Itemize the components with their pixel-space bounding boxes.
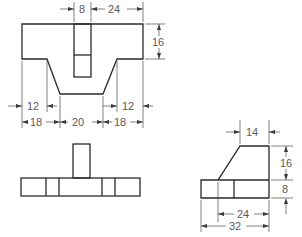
dim-right-top-width: 24 — [108, 3, 120, 15]
dim-top-width: 14 — [246, 126, 258, 138]
dim-top-height: 16 — [152, 36, 164, 48]
front-view: 8 24 16 12 12 — [8, 2, 165, 128]
side-view-outline — [201, 146, 269, 198]
top-view-stem — [73, 144, 90, 178]
front-view-outline — [22, 24, 143, 94]
top-view-base — [21, 178, 140, 196]
dim-slot-width: 8 — [79, 3, 85, 15]
dim-left-inner-offset: 12 — [27, 100, 39, 112]
dim-right-bottom: 18 — [114, 116, 126, 128]
front-view-slot — [74, 24, 91, 77]
side-view: 14 16 8 24 32 — [201, 120, 293, 232]
technical-drawing: 8 24 16 12 12 — [0, 0, 302, 237]
dim-left-bottom: 18 — [30, 116, 42, 128]
dim-base-height: 8 — [282, 183, 288, 195]
top-view — [21, 144, 140, 196]
dim-upper-height: 16 — [280, 157, 292, 169]
dim-center-bottom: 20 — [72, 116, 84, 128]
dim-inner-length: 24 — [237, 208, 249, 220]
dim-right-inner-offset: 12 — [122, 100, 134, 112]
dim-total-length: 32 — [229, 220, 241, 232]
